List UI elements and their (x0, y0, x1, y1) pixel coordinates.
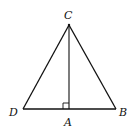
segment-cb (69, 25, 116, 109)
vertex-c-dot (68, 24, 70, 26)
label-d: D (8, 106, 18, 119)
right-angle-marker (63, 103, 69, 109)
label-a: A (63, 116, 72, 129)
triangle-diagram: C D B A (0, 0, 139, 132)
label-b: B (118, 106, 127, 119)
segment-cd (23, 25, 69, 109)
label-c: C (64, 9, 73, 22)
